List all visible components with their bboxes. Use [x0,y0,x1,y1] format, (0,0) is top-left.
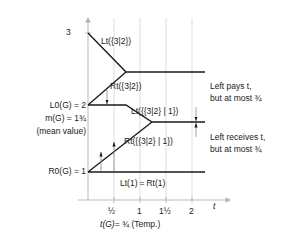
measure-arrows [101,89,196,171]
r-mid-arg: ({{3|2} | 1}) [133,136,173,146]
note-left-receives-line1: Left receives t, [210,132,265,143]
caption-rest: = ¾ (Temp.) [115,219,161,229]
y-tick-label-3: 3 [66,27,71,37]
curve-label-r-mid: Rt({{3|2} | 1}) [124,136,173,146]
l-top-arg: ({3|2}) [108,36,131,46]
curve-r-mid [88,122,152,172]
r0-rest: (G) = 1 [59,166,86,176]
label-mean: m(G) = 1¾ [0,113,86,124]
bottom-arg-right: (1) [155,178,165,188]
x-tick-label-one: 1 [137,206,142,216]
x-axis-label: t [213,201,215,211]
x-axis [78,197,231,203]
thermograph-curves [88,33,205,172]
note-left-pays-line1: Left pays t, [210,81,252,92]
x-axis-caption: t(G)= ¾ (Temp.) [100,219,160,230]
note-left-pays-line2: but at most ¾ [210,93,262,104]
curve-label-bottom: Lt(1)=Rt(1) [120,178,165,188]
curve-label-l-mid: Lt({{3|2} | 1}) [131,106,178,116]
bottom-arg-left: (1) [127,178,137,188]
curve-label-r-top: Rt({3|2}) [110,81,142,91]
note-left-receives-line2: but at most ¾ [210,144,262,155]
x-tick-label-half: ½ [108,206,115,216]
l-mid-arg: ({{3|2} | 1}) [138,106,178,116]
label-r0: R0(G) = 1 [0,166,86,177]
curve-label-l-top: Lt({3|2}) [101,36,131,46]
thermograph-figure: 3 ½ 1 1½ 2 t t(G)= ¾ (Temp.) L0(G) = 2 m… [0,0,283,245]
label-l0: L0(G) = 2 [0,100,86,111]
m-rest: (G) = 1¾ [52,113,86,123]
l0-rest: (G) = 2 [59,100,86,110]
x-tick-label-two: 2 [189,206,194,216]
label-mean-note: (mean value) [0,126,86,137]
r-top-arg: ({3|2}) [119,81,142,91]
x-tick-label-one-half: 1½ [159,206,171,216]
caption-paren: (G) [102,219,114,229]
